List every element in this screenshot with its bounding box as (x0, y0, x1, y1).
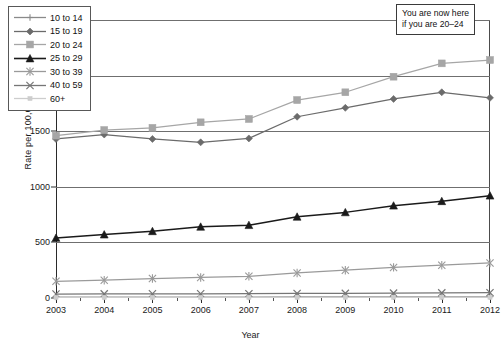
x-tick-label: 2003 (46, 305, 66, 315)
x-minor-tick (80, 298, 81, 301)
x-minor-tick (321, 298, 322, 301)
x-tick-label: 2007 (239, 305, 259, 315)
legend-label: 15 to 19 (47, 26, 83, 36)
x-minor-tick (369, 298, 370, 301)
callout-line-2: if you are 20–24 (402, 19, 469, 30)
x-tick-label: 2009 (335, 305, 355, 315)
legend-marker-plus-icon (13, 11, 47, 24)
legend-marker-small-square-icon (13, 92, 47, 105)
legend-marker-square-icon (13, 38, 47, 51)
data-series-layer (56, 20, 490, 298)
legend-item-15-to-19[interactable]: 15 to 19 (13, 25, 83, 39)
legend-marker-diamond-icon (13, 25, 47, 38)
plot-area: 05001000150020002500 2003200420052006200… (56, 20, 490, 298)
legend-marker-asterisk-icon (13, 65, 47, 78)
x-tick-label: 2012 (480, 305, 500, 315)
y-tick-label: 0 (45, 293, 50, 303)
x-minor-tick (128, 298, 129, 301)
chart-container: Rate per 100,000 Year 050010001500200025… (0, 0, 501, 347)
x-minor-tick (418, 298, 419, 301)
y-tick-label: 1000 (30, 182, 50, 192)
x-tick-label: 2010 (384, 305, 404, 315)
y-tick-label: 1500 (30, 126, 50, 136)
series-20-to-24 (53, 57, 494, 139)
legend: 10 to 1415 to 1920 to 2425 to 2930 to 39… (8, 6, 91, 111)
legend-item-10-to-14[interactable]: 10 to 14 (13, 11, 83, 25)
you-are-now-here-callout: You are now here if you are 20–24 (396, 4, 475, 35)
legend-label: 10 to 14 (47, 13, 83, 23)
x-minor-tick (466, 298, 467, 301)
x-tick-label: 2004 (94, 305, 114, 315)
series-30-to-39 (52, 259, 493, 286)
legend-label: 30 to 39 (47, 67, 83, 77)
x-tick-label: 2006 (191, 305, 211, 315)
legend-item-25-to-29[interactable]: 25 to 29 (13, 52, 83, 66)
legend-item-40-to-59[interactable]: 40 to 59 (13, 79, 83, 93)
legend-item-20-to-24[interactable]: 20 to 24 (13, 38, 83, 52)
x-tick-label: 2008 (287, 305, 307, 315)
legend-label: 25 to 29 (47, 53, 83, 63)
legend-marker-triangle-icon (13, 52, 47, 65)
legend-label: 20 to 24 (47, 40, 83, 50)
series-25-to-29 (52, 192, 494, 242)
legend-label: 60+ (47, 94, 65, 104)
x-tick-label: 2011 (432, 305, 451, 315)
series-15-to-19 (53, 89, 494, 146)
x-minor-tick (225, 298, 226, 301)
callout-line-1: You are now here (402, 8, 469, 19)
legend-item-30-to-39[interactable]: 30 to 39 (13, 65, 83, 79)
x-minor-tick (273, 298, 274, 301)
legend-marker-cross-icon (13, 79, 47, 92)
x-axis-title: Year (0, 330, 501, 340)
x-tick-label: 2005 (142, 305, 162, 315)
legend-item-60+[interactable]: 60+ (13, 92, 83, 106)
y-tick-label: 500 (35, 237, 50, 247)
legend-label: 40 to 59 (47, 80, 83, 90)
x-minor-tick (177, 298, 178, 301)
